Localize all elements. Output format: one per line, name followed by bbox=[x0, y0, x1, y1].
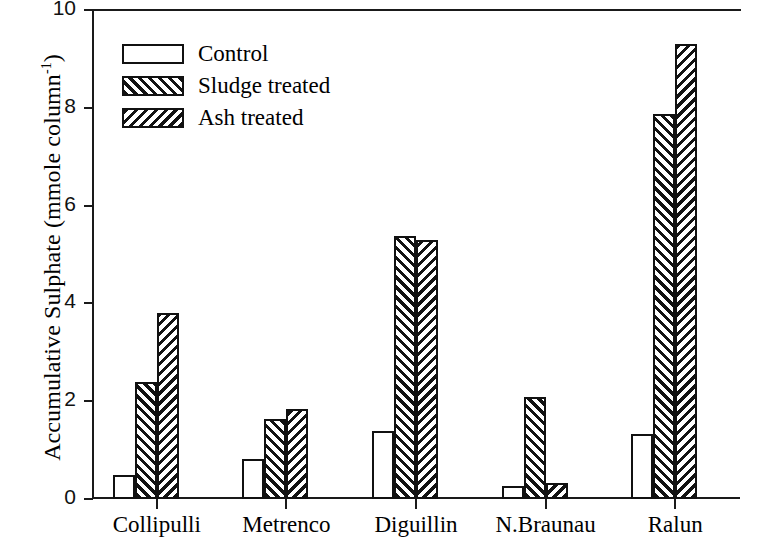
y-axis-tick bbox=[84, 498, 93, 500]
bar bbox=[286, 409, 308, 499]
legend-label: Ash treated bbox=[198, 105, 303, 131]
legend-label: Control bbox=[198, 41, 268, 67]
legend-swatch bbox=[122, 44, 184, 64]
legend-label: Sludge treated bbox=[198, 73, 330, 99]
y-axis-tick bbox=[84, 205, 93, 207]
y-axis-tick-label: 8 bbox=[30, 94, 76, 118]
bar-chart: Accumulative Sulphate (mmole column-1) 0… bbox=[0, 0, 759, 556]
x-axis-tick bbox=[156, 499, 158, 509]
y-axis-title-superscript: -1 bbox=[39, 62, 54, 74]
y-axis-title: Accumulative Sulphate (mmole column-1) bbox=[39, 8, 66, 508]
bar bbox=[546, 483, 568, 499]
y-axis-tick-label: 10 bbox=[30, 0, 76, 20]
y-axis-tick bbox=[84, 400, 93, 402]
bar bbox=[524, 397, 546, 499]
bar bbox=[675, 44, 697, 499]
bar bbox=[372, 431, 394, 499]
x-axis-tick bbox=[674, 499, 676, 509]
x-axis-tick bbox=[545, 499, 547, 509]
y-axis-tick-label: 6 bbox=[30, 192, 76, 216]
x-axis-tick bbox=[285, 499, 287, 509]
legend-item: Sludge treated bbox=[122, 70, 330, 102]
y-axis-tick-label: 2 bbox=[30, 387, 76, 411]
x-axis-tick bbox=[415, 499, 417, 509]
y-axis-tick bbox=[84, 302, 93, 304]
y-axis-tick bbox=[84, 9, 93, 11]
y-axis-tick-label: 0 bbox=[30, 485, 76, 509]
bar bbox=[653, 114, 675, 499]
legend-item: Control bbox=[122, 38, 330, 70]
bar bbox=[631, 434, 653, 499]
bar bbox=[242, 459, 264, 499]
bar bbox=[416, 240, 438, 499]
y-axis-tick bbox=[84, 107, 93, 109]
bar bbox=[502, 486, 524, 499]
x-axis-category-label: Ralun bbox=[595, 512, 755, 538]
legend-item: Ash treated bbox=[122, 102, 330, 134]
bar bbox=[394, 236, 416, 499]
y-axis-tick-label: 4 bbox=[30, 289, 76, 313]
bar bbox=[157, 313, 179, 499]
bar bbox=[135, 382, 157, 499]
legend: ControlSludge treatedAsh treated bbox=[122, 38, 330, 134]
bar bbox=[264, 419, 286, 499]
legend-swatch bbox=[122, 76, 184, 96]
bar bbox=[113, 475, 135, 499]
legend-swatch bbox=[122, 108, 184, 128]
y-axis-title-suffix: ) bbox=[39, 54, 65, 62]
